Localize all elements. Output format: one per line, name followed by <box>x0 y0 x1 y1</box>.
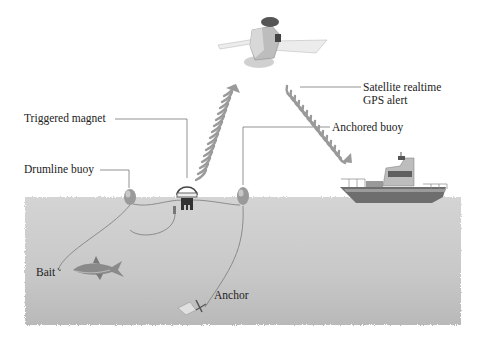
label-satellite-alert: Satellite realtime GPS alert <box>363 81 441 107</box>
leader-drumline-buoy <box>100 170 129 188</box>
label-satellite-alert-line2: GPS alert <box>363 94 441 107</box>
label-triggered-magnet: Triggered magnet <box>24 112 106 125</box>
leader-triggered-magnet <box>115 119 187 178</box>
satellite-icon <box>218 17 327 68</box>
boat-icon <box>340 152 447 203</box>
label-satellite-alert-line1: Satellite realtime <box>363 81 441 94</box>
drumline-diagram: Satellite realtime GPS alert Anchored bu… <box>0 0 484 341</box>
signal-up <box>196 84 240 180</box>
leader-anchored-buoy <box>243 127 330 185</box>
leader-lines <box>100 87 361 188</box>
signal-down-arrowhead <box>342 153 352 163</box>
anchored-buoy-icon <box>237 187 249 205</box>
label-drumline-buoy: Drumline buoy <box>24 163 94 176</box>
label-bait: Bait <box>36 266 55 279</box>
label-anchor: Anchor <box>214 289 249 302</box>
drumline-buoy-icon <box>124 189 136 205</box>
label-anchored-buoy: Anchored buoy <box>332 121 403 134</box>
